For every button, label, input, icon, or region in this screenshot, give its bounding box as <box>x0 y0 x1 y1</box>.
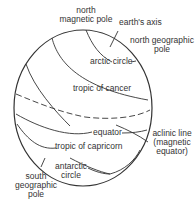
tropic-of-capricorn-line <box>17 124 56 148</box>
latitude-line <box>26 64 70 126</box>
label-equator: equator <box>93 128 122 137</box>
label-south-geographic-pole: south geographic pole <box>14 172 58 199</box>
equator-right <box>122 130 147 133</box>
label-arctic-circle: arctic circle <box>90 57 133 66</box>
label-aclinic-line: aclinic line (magnetic equator) <box>148 129 196 156</box>
south-pole-tick <box>41 158 45 167</box>
label-earths-axis: earth's axis <box>119 18 162 27</box>
label-north-geographic-pole: north geographic pole <box>128 36 196 54</box>
label-tropic-of-cancer: tropic of cancer <box>73 84 131 93</box>
label-tropic-of-capricorn: tropic of capricorn <box>55 142 123 151</box>
earth-magnetism-diagram: north magnetic pole earth's axis north g… <box>0 0 196 208</box>
earths-axis-tick <box>110 31 118 47</box>
label-north-magnetic-pole: north magnetic pole <box>56 6 116 24</box>
equator-line <box>16 114 92 134</box>
aclinic-line <box>16 94 150 118</box>
